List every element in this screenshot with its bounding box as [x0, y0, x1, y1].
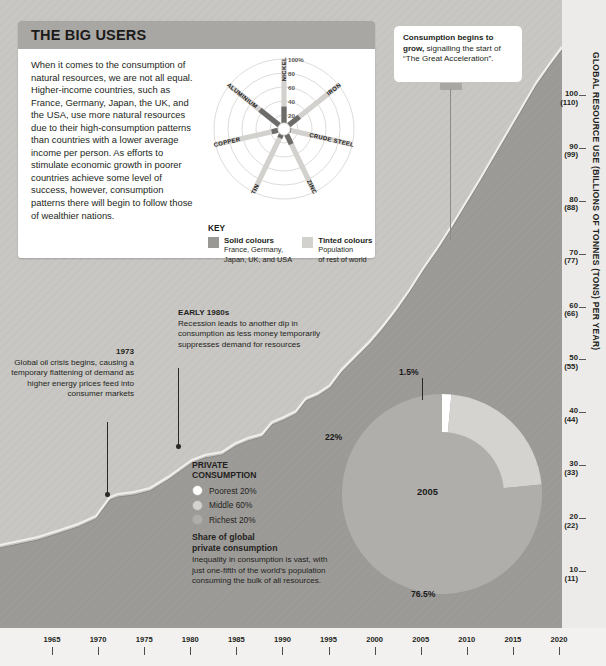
y-tick-50: 50(55): [564, 354, 578, 371]
key-tinted-desc-1: Population: [318, 245, 353, 254]
radar-spoke-solid-tin: [280, 134, 282, 137]
x-tick-mark: [282, 647, 283, 655]
y-tick-secondary: (110): [560, 99, 578, 108]
bottom-margin: [0, 628, 606, 666]
radar-label-copper: COPPER: [213, 136, 241, 148]
donut-chart-svg: [336, 388, 548, 600]
y-tick-60: 60(66): [564, 302, 578, 319]
x-tick-mark: [559, 647, 560, 655]
y-tick-mark: [579, 307, 586, 308]
pc-item-0: Poorest 20%: [192, 485, 332, 496]
y-tick-secondary: (44): [564, 416, 578, 425]
y-tick-10: 10(11): [565, 566, 578, 583]
y-tick-mark: [579, 359, 586, 360]
pc-title-line1: PRIVATE: [192, 460, 228, 470]
annotation-1973-dot: [105, 492, 110, 497]
pc-label-2: Richest 20%: [209, 515, 256, 525]
pc-sub-title-1: Share of global: [192, 532, 332, 543]
pc-sub-body: Inequality in consumption is vast, with …: [192, 555, 332, 586]
donut-center-year: 2005: [417, 486, 438, 497]
x-tick-mark: [375, 647, 376, 655]
key-text-solid: Solid colours France, Germany, Japan, UK…: [224, 236, 292, 264]
radar-scale-40: 40: [288, 98, 295, 105]
y-tick-40: 40(44): [564, 407, 578, 424]
y-tick-secondary: (99): [564, 151, 578, 160]
private-consumption-title: PRIVATE CONSUMPTION: [192, 460, 332, 480]
callout-connector-line: [450, 89, 451, 240]
donut-label-richest: 76.5%: [411, 589, 435, 599]
y-tick-70: 70(77): [564, 249, 578, 266]
great-acceleration-callout: Consumption begins to grow, signalling t…: [393, 25, 523, 83]
y-tick-mark: [579, 148, 586, 149]
radar-label-nickel: NICKEL: [281, 57, 287, 81]
y-tick-mark: [579, 95, 586, 96]
radar-label-crude-steel: CRUDE STEEL: [309, 132, 355, 148]
key-swatch-solid: [208, 237, 219, 248]
pc-label-0: Poorest 20%: [209, 486, 257, 496]
x-tick-2015: 2015: [504, 635, 521, 644]
donut-hole: [380, 432, 504, 556]
pc-swatch-0: [192, 485, 203, 496]
y-tick-primary: 40: [569, 406, 578, 415]
y-tick-primary: 10: [569, 565, 578, 574]
annotation-1973-line: [107, 422, 108, 494]
y-tick-mark: [579, 412, 586, 413]
key-entry-tinted: Tinted colours Population of rest of wor…: [302, 236, 372, 264]
donut-label-middle: 22%: [325, 432, 342, 442]
x-tick-mark: [144, 647, 145, 655]
big-users-body: When it comes to the consumption of natu…: [18, 49, 375, 222]
x-tick-mark: [421, 647, 422, 655]
key-entry-solid: Solid colours France, Germany, Japan, UK…: [208, 236, 292, 264]
page-title: THE BIG USERS: [31, 27, 146, 43]
x-tick-1985: 1985: [228, 635, 245, 644]
pc-swatch-2: [192, 514, 203, 525]
key-text-tinted: Tinted colours Population of rest of wor…: [318, 236, 372, 264]
annotation-early-1980s-body: Recession leads to another dip in consum…: [178, 319, 320, 349]
pc-item-2: Richest 20%: [192, 514, 332, 525]
radar-chart-svg: NICKELIRONCRUDE STEELZINCTINCOPPERALUMIN…: [200, 57, 368, 213]
key-legend: KEY Solid colours France, Germany, Japan…: [208, 223, 388, 264]
y-tick-30: 30(33): [564, 460, 578, 477]
radar-hub: [278, 123, 290, 135]
x-tick-mark: [190, 647, 191, 655]
radar-chart: NICKELIRONCRUDE STEELZINCTINCOPPERALUMIN…: [200, 59, 363, 211]
key-swatch-tinted: [302, 237, 313, 248]
y-tick-secondary: (77): [564, 257, 578, 266]
pc-swatch-1: [192, 500, 203, 511]
annotation-early-1980s: EARLY 1980s Recession leads to another d…: [178, 308, 328, 350]
annotation-early-1980s-heading: EARLY 1980s: [178, 308, 328, 319]
private-consumption-donut-chart: [336, 388, 548, 600]
key-title: KEY: [208, 223, 388, 233]
annotation-early-1980s-dot: [176, 444, 181, 449]
y-tick-primary: 100: [565, 89, 578, 98]
y-tick-mark: [579, 201, 586, 202]
radar-scale-80: 80: [288, 70, 295, 77]
y-tick-secondary: (33): [564, 469, 578, 478]
annotation-1973-heading: 1973: [6, 347, 134, 358]
y-tick-mark: [579, 518, 586, 519]
pc-label-1: Middle 60%: [209, 500, 252, 510]
key-solid-desc-2: Japan, UK, and USA: [224, 255, 292, 264]
x-tick-2020: 2020: [551, 635, 568, 644]
radar-scale-20: 20: [288, 112, 295, 119]
x-tick-2000: 2000: [366, 635, 383, 644]
donut-label-poorest: 1.5%: [399, 367, 419, 377]
y-tick-mark: [579, 571, 586, 572]
y-tick-mark: [579, 254, 586, 255]
x-tick-1990: 1990: [274, 635, 291, 644]
private-consumption-items: Poorest 20%Middle 60%Richest 20%: [192, 485, 332, 525]
radar-spoke-tinted-tin: [254, 134, 282, 192]
radar-label-iron: IRON: [326, 82, 343, 97]
annotation-1973: 1973 Global oil crisis begins, causing a…: [6, 347, 134, 400]
x-tick-1970: 1970: [90, 635, 107, 644]
y-tick-primary: 20: [569, 512, 578, 521]
y-tick-90: 90(99): [564, 143, 578, 160]
y-tick-secondary: (55): [564, 363, 578, 372]
donut-label-poorest-leader: [422, 378, 423, 400]
pc-sub-title-2: private consumption: [192, 543, 332, 554]
pc-title-line2: CONSUMPTION: [192, 470, 256, 480]
y-tick-100: 100(110): [560, 90, 578, 107]
x-tick-mark: [513, 647, 514, 655]
y-tick-secondary: (22): [564, 522, 578, 531]
private-consumption-subsection: Share of global private consumption Ineq…: [192, 532, 332, 586]
